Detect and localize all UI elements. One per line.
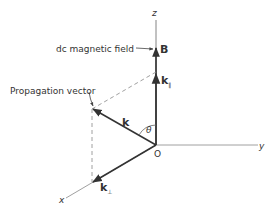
k-perp-subscript: ⊥ [107,188,112,195]
k-parallel-label: k∥ [161,74,171,89]
diagram-canvas: z y x O dc magnetic field B k∥ Propagati… [0,0,272,210]
origin-label: O [154,149,161,159]
b-field-pointer [136,48,153,49]
k-vector-label: k [122,116,130,129]
b-field-annotation: dc magnetic field [56,44,134,54]
k-perp-vector [93,145,156,182]
k-parallel-subscript: ∥ [168,81,171,89]
x-axis-label: x [58,195,65,205]
theta-label: θ [146,125,152,135]
projection-line-parallel [92,72,156,109]
propagation-annotation: Propagation vector [10,86,96,96]
z-axis-label: z [151,8,157,18]
k-perp-label: k⊥ [100,181,113,195]
y-axis-label: y [258,141,265,151]
b-vector-label: B [160,43,168,56]
